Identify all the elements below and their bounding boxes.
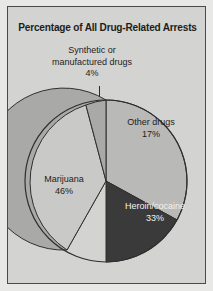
pie-label-other-drugs: Other drugs 17% [114,117,188,140]
pie-label-marijuana-percent: 46% [26,186,102,198]
pie-label-heroin-cocaine: Heroin/cocaine 33% [112,201,198,224]
pie-label-heroin-cocaine-name: Heroin/cocaine [125,201,185,211]
pie-label-marijuana: Marijuana 46% [26,174,102,197]
chart-screenshot: Percentage of All Drug-Related Arrests S… [0,0,213,291]
pie-label-marijuana-name: Marijuana [44,174,84,184]
pie-chart [8,7,207,285]
pie-label-other-drugs-name: Other drugs [127,117,175,127]
pie-label-other-drugs-percent: 17% [114,129,188,141]
pie-chart-svg [8,7,207,285]
pie-label-heroin-cocaine-percent: 33% [112,213,198,225]
chart-panel: Percentage of All Drug-Related Arrests S… [7,6,206,284]
